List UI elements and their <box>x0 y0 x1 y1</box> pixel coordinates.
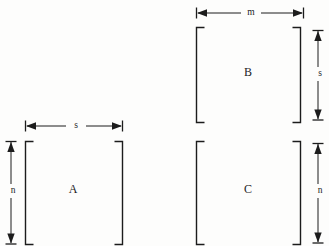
matrix-a-bracket-left <box>26 142 34 245</box>
matrix-dimension-diagram: A B C s n m s n <box>0 0 329 246</box>
matrix-c-bracket-left <box>197 142 205 245</box>
matrix-a-bracket-right <box>115 142 123 245</box>
dimension-label-a-height: n <box>4 186 22 196</box>
dimension-label-b-width: m <box>241 8 261 18</box>
dimension-label-c-height: n <box>311 186 329 196</box>
matrix-label-a: A <box>63 183 83 195</box>
dimension-label-a-width: s <box>66 121 86 131</box>
matrix-label-b: B <box>238 66 258 78</box>
matrix-c-bracket-right <box>293 142 301 245</box>
matrix-label-c: C <box>238 183 258 195</box>
dimension-label-b-height: s <box>311 69 329 79</box>
diagram-canvas <box>0 0 329 246</box>
matrix-b-bracket-right <box>293 28 301 123</box>
matrix-b-bracket-left <box>197 28 205 123</box>
